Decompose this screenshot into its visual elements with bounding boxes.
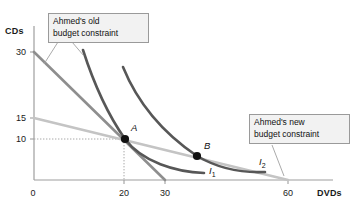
x-tick-label-30: 30	[157, 188, 173, 198]
data-point-b	[193, 152, 201, 160]
data-point-a	[121, 135, 129, 143]
y-tick-label-30: 30	[8, 47, 26, 57]
y-axis-title: CDs	[5, 26, 24, 36]
indifference-curve-chart: CDs DVDs 30 15 10 0 20 30 60 A B I1 I2 A…	[0, 0, 354, 209]
point-label-a: A	[131, 122, 137, 133]
old-budget-callout-line2: budget constraint	[53, 28, 144, 40]
x-axis-title: DVDs	[317, 188, 342, 198]
curve-label-i1-sub: 1	[212, 171, 216, 178]
curve-label-i1: I1	[209, 165, 216, 178]
old-budget-constraint-line	[34, 52, 165, 180]
y-tick-label-15: 15	[8, 113, 26, 123]
curve-label-i2: I2	[259, 156, 266, 169]
new-budget-callout: Ahmed's new budget constraint	[249, 114, 350, 144]
old-budget-callout: Ahmed's old budget constraint	[48, 13, 149, 43]
point-label-b: B	[204, 140, 210, 151]
x-tick-label-60: 60	[280, 188, 296, 198]
y-tick-label-10: 10	[8, 134, 26, 144]
curve-label-i2-sub: 2	[262, 162, 266, 169]
old-budget-callout-line1: Ahmed's old	[53, 16, 144, 28]
new-budget-callout-line2: budget constraint	[254, 129, 345, 141]
x-tick-label-0: 0	[26, 188, 40, 198]
old-callout-leader-line	[44, 42, 58, 64]
new-budget-callout-line1: Ahmed's new	[254, 117, 345, 129]
x-tick-label-20: 20	[116, 188, 132, 198]
new-callout-leader-line	[272, 145, 284, 176]
